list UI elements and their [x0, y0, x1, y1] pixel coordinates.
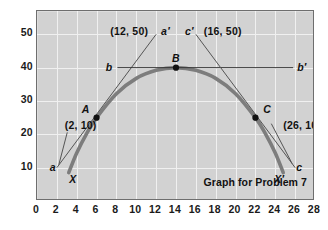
x-tick-22: 22: [244, 203, 264, 215]
x-tick-20: 20: [225, 203, 245, 215]
y-tick-30: 30: [3, 93, 33, 105]
y-tick-20: 20: [3, 126, 33, 138]
caption: Graph for Problem 7: [204, 176, 307, 188]
label-c: c: [296, 161, 302, 173]
x-tick-6: 6: [86, 203, 106, 215]
x-tick-10: 10: [125, 203, 145, 215]
label-b: b: [106, 61, 113, 73]
data-point-C: [252, 115, 258, 121]
label-C: C: [263, 103, 271, 115]
label-a-prime: a′: [161, 25, 170, 37]
coord-12-50: (12, 50): [110, 25, 148, 37]
coord-2-10: (2, 10): [65, 119, 97, 131]
label-B: B: [172, 52, 180, 64]
series-parabola-xx-: [69, 68, 283, 173]
curve-overlay: [37, 11, 314, 200]
label-b-prime: b′: [297, 61, 306, 73]
label-A: A: [82, 103, 90, 115]
label-c-prime: c′: [185, 25, 194, 37]
graph-figure: 1020304050 (12, 50)a′c′(16, 50)Bbb′AC(2,…: [0, 0, 328, 230]
y-tick-50: 50: [3, 26, 33, 38]
line-secant-a-a-: [57, 34, 156, 167]
x-tick-8: 8: [105, 203, 125, 215]
x-tick-2: 2: [46, 203, 66, 215]
x-tick-0: 0: [26, 203, 46, 215]
x-tick-28: 28: [304, 203, 324, 215]
x-tick-14: 14: [165, 203, 185, 215]
coord-26-10: (26, 10): [283, 119, 314, 131]
x-tick-26: 26: [284, 203, 304, 215]
y-tick-40: 40: [3, 60, 33, 72]
x-tick-24: 24: [264, 203, 284, 215]
label-X: X: [69, 173, 76, 185]
plot-area: (12, 50)a′c′(16, 50)Bbb′AC(2, 10)(26, 10…: [36, 10, 314, 200]
y-tick-10: 10: [3, 160, 33, 172]
coord-16-50: (16, 50): [204, 25, 242, 37]
label-a: a: [50, 161, 56, 173]
line-secant-c-c-: [196, 34, 295, 167]
data-point-B: [173, 65, 179, 71]
x-tick-4: 4: [66, 203, 86, 215]
x-tick-16: 16: [185, 203, 205, 215]
x-tick-18: 18: [205, 203, 225, 215]
x-tick-12: 12: [145, 203, 165, 215]
